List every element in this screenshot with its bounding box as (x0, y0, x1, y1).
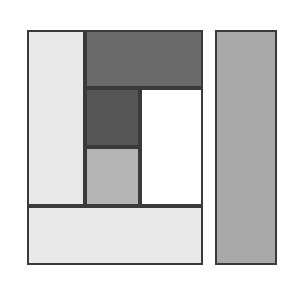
figure-canvas (0, 0, 296, 283)
top-dark-band (85, 30, 203, 88)
middle-gray-block (85, 147, 140, 206)
right-gray-panel (215, 30, 277, 265)
inner-dark-square (85, 88, 140, 147)
white-block (140, 88, 203, 206)
left-light-column (27, 30, 85, 206)
bottom-light-band (27, 206, 203, 265)
